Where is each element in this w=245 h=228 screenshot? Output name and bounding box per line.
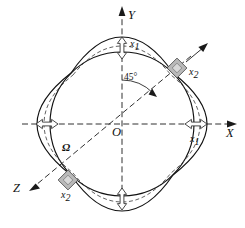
origin-label: O xyxy=(112,125,121,139)
vibrating-ring-diagram: Y X Z O xyxy=(0,0,245,228)
amplitude-arrow-right xyxy=(185,119,207,128)
amplitude-label-lower-left: x2 xyxy=(60,189,70,203)
amplitude-arrow-top xyxy=(117,37,126,59)
z-axis-arrowhead xyxy=(29,183,40,191)
amplitude-label-upper-right: x2 xyxy=(188,66,198,80)
x-axis-label: X xyxy=(225,126,235,140)
omega-label: Ω xyxy=(62,141,71,153)
z-axis-label: Z xyxy=(13,181,21,195)
y-axis-arrowhead xyxy=(119,6,126,16)
amplitude-arrow-bottom xyxy=(117,188,126,210)
amplitude-arrow-left xyxy=(36,119,58,128)
block-lower-left xyxy=(58,170,78,190)
amplitude-label-top: x1 xyxy=(129,38,139,52)
diagram-canvas: Y X Z O xyxy=(0,0,245,228)
angle-label: 45° xyxy=(124,72,138,82)
y-axis-label: Y xyxy=(128,8,137,22)
block-upper-right xyxy=(167,58,187,78)
